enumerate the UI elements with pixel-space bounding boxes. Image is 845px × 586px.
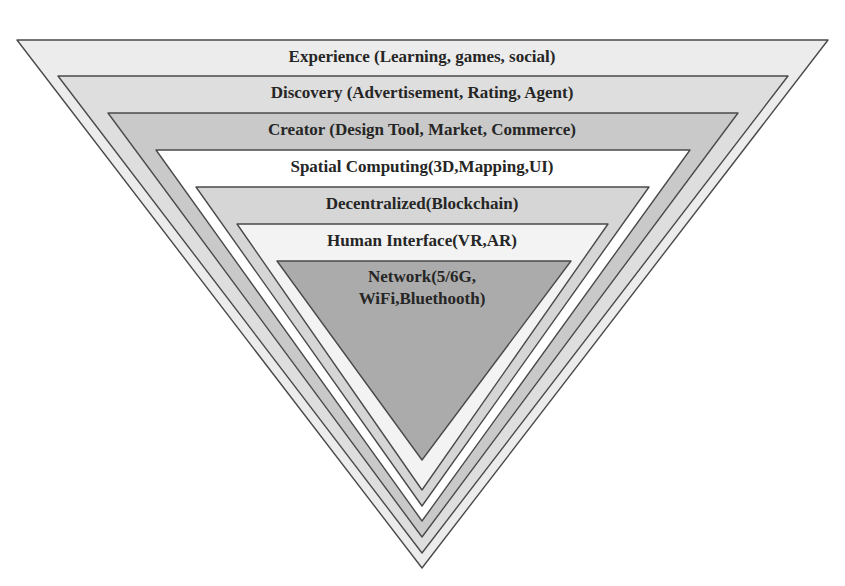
- layered-pyramid-diagram: Experience (Learning, games, social) Dis…: [0, 0, 845, 586]
- label-decentralized: Decentralized(Blockchain): [326, 194, 519, 213]
- label-creator: Creator (Design Tool, Market, Commerce): [268, 120, 576, 139]
- label-experience: Experience (Learning, games, social): [289, 47, 556, 66]
- label-network-line2: WiFi,Bluethooth): [359, 289, 486, 308]
- label-network-line1: Network(5/6G,: [368, 267, 476, 286]
- label-discovery: Discovery (Advertisement, Rating, Agent): [271, 83, 574, 102]
- label-human-interface: Human Interface(VR,AR): [327, 231, 517, 250]
- label-spatial-computing: Spatial Computing(3D,Mapping,UI): [290, 157, 553, 176]
